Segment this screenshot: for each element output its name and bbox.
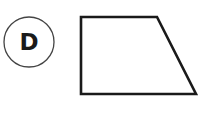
- diagram-canvas: D: [0, 0, 208, 116]
- option-label: D: [4, 17, 54, 67]
- option-letter: D: [19, 29, 38, 55]
- trapezoid-shape: [81, 17, 196, 94]
- diagram-svg: D: [0, 0, 208, 116]
